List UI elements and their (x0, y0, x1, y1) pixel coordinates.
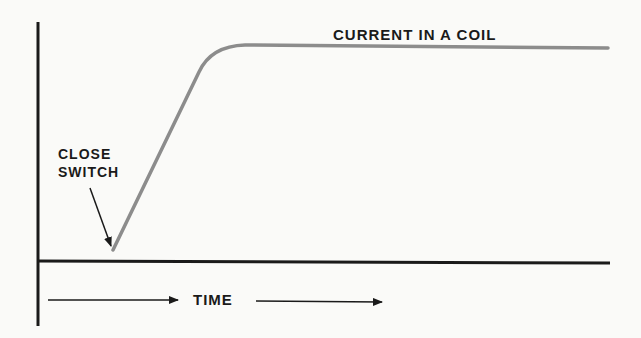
close-switch-arrow (90, 188, 111, 246)
annotation-line-1: CLOSE (58, 145, 119, 163)
close-switch-annotation: CLOSE SWITCH (58, 145, 119, 181)
curve-title-label: CURRENT IN A COIL (333, 27, 496, 42)
time-arrow-right (256, 301, 382, 302)
annotation-line-2: SWITCH (58, 163, 119, 181)
x-axis (37, 261, 610, 263)
diagram: CURRENT IN A COIL CLOSE SWITCH TIME (0, 0, 641, 338)
x-axis-label: TIME (193, 292, 233, 307)
current-curve (113, 45, 608, 250)
